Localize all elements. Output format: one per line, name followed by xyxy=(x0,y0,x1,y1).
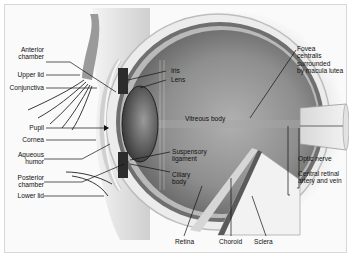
label-central-retinal-artery-vein: Central retinal artery and vein xyxy=(298,170,342,185)
label-lower-lid: Lower lid xyxy=(2,192,44,199)
label-conjunctiva: Conjunctiva xyxy=(2,84,44,91)
label-retina: Retina xyxy=(175,238,194,245)
label-suspensory-ligament: Suspensory ligament xyxy=(172,148,207,163)
lens xyxy=(122,86,158,162)
iris-upper xyxy=(118,68,128,94)
label-posterior-chamber: Posterior chamber xyxy=(2,174,44,189)
label-lens: Lens xyxy=(171,76,185,83)
label-anterior-chamber: Anterior chamber xyxy=(2,46,44,61)
label-vitreous-body: Vitreous body xyxy=(185,115,225,122)
label-sclera: Sclera xyxy=(254,238,273,245)
optic-nerve xyxy=(300,104,346,150)
label-optic-nerve: Optic nerve xyxy=(298,155,332,162)
eye-illustration xyxy=(0,0,349,256)
iris-lower xyxy=(118,152,128,178)
label-ciliary-body: Ciliary body xyxy=(172,171,190,186)
label-cornea: Cornea xyxy=(2,136,44,143)
label-pupil: Pupil xyxy=(2,124,44,131)
label-upper-lid: Upper lid xyxy=(2,71,44,78)
label-choroid: Choroid xyxy=(219,238,242,245)
label-iris: Iris xyxy=(171,67,180,74)
label-aqueous-humor: Aqueous humor xyxy=(2,151,44,166)
label-fovea-centralis: Fovea centralis surrounded by macula lut… xyxy=(297,45,343,75)
